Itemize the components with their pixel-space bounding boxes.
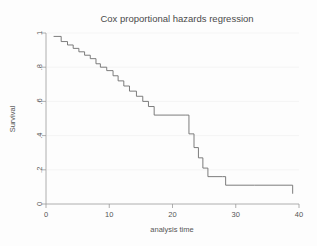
y-tick-label: 0 — [35, 202, 44, 206]
x-tick-label: 40 — [295, 210, 303, 219]
chart-title: Cox proportional hazards regression — [100, 13, 253, 24]
y-tick-label: .4 — [35, 132, 44, 138]
y-tick-label: 1 — [35, 31, 44, 35]
y-tick-label: .8 — [35, 64, 44, 70]
x-tick-label: 20 — [168, 210, 176, 219]
survival-plot: Cox proportional hazards regression 0.2.… — [0, 0, 317, 246]
y-tick-label: .2 — [35, 167, 44, 173]
x-tick-label: 0 — [44, 210, 48, 219]
x-axis-label: analysis time — [150, 225, 193, 234]
y-tick-label: .6 — [35, 98, 44, 104]
x-tick-label: 10 — [105, 210, 113, 219]
y-axis-label: Survival — [8, 105, 17, 132]
x-tick-label: 30 — [232, 210, 240, 219]
chart-figure: Cox proportional hazards regression 0.2.… — [0, 0, 317, 246]
